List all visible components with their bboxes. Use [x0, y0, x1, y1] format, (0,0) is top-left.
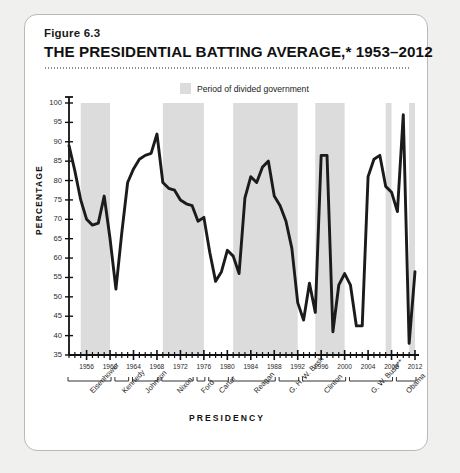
- y-tick-label: 45: [42, 311, 62, 320]
- y-tick-label: 90: [42, 137, 62, 146]
- figure-card: Figure 6.3 THE PRESIDENTIAL BATTING AVER…: [24, 14, 428, 451]
- y-tick-label: 80: [42, 176, 62, 185]
- y-tick-label: 40: [42, 331, 62, 340]
- x-tick-label: 1980: [214, 363, 240, 370]
- y-tick-label: 35: [42, 350, 62, 359]
- y-tick-label: 85: [42, 156, 62, 165]
- y-tick-label: 60: [42, 253, 62, 262]
- x-tick-label: 1968: [144, 363, 170, 370]
- x-tick-label: 2004: [355, 363, 381, 370]
- y-tick-label: 65: [42, 234, 62, 243]
- x-tick-label: 2000: [332, 363, 358, 370]
- president-term-bracket: [197, 377, 205, 381]
- x-tick-label: 1972: [167, 363, 193, 370]
- x-tick-label: 1984: [238, 363, 264, 370]
- x-tick-label: 1964: [121, 363, 147, 370]
- chart-plot-area: Period of divided government PERCENTAGE …: [25, 15, 429, 452]
- x-tick-label: 1976: [191, 363, 217, 370]
- x-tick-label: 1988: [261, 363, 287, 370]
- x-tick-label: 1956: [74, 363, 100, 370]
- y-tick-label: 100: [42, 98, 62, 107]
- y-tick-label: 95: [42, 117, 62, 126]
- divided-government-band: [386, 103, 392, 355]
- y-tick-label: 75: [42, 195, 62, 204]
- x-tick-label: 2012: [402, 363, 428, 370]
- divided-government-band: [163, 103, 204, 355]
- y-tick-label: 70: [42, 214, 62, 223]
- y-tick-label: 55: [42, 272, 62, 281]
- divided-government-band: [81, 103, 110, 355]
- y-tick-label: 50: [42, 292, 62, 301]
